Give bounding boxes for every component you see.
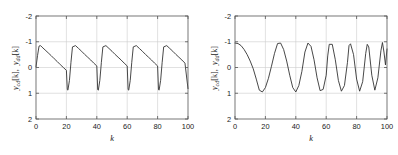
data-series-line xyxy=(36,46,188,91)
x-tick-label: 0 xyxy=(34,122,38,131)
x-tick-label: 40 xyxy=(93,122,101,131)
chart-panel-left: 020406080100210-1-2k ycd[k], ydd[k] xyxy=(0,0,199,155)
y-tick-label: -1 xyxy=(224,37,231,46)
y-tick-label: 0 xyxy=(227,63,231,72)
axes-right: 020406080100210-1-2k xyxy=(199,0,398,155)
chart-panel-right: 020406080100210-1-2k ycd[k], ydd[k] xyxy=(199,0,398,155)
x-tick-label: 20 xyxy=(261,122,269,131)
y-tick-label: -2 xyxy=(25,12,32,21)
y-tick-label: 2 xyxy=(227,115,231,124)
x-tick-label: 40 xyxy=(292,122,300,131)
y-tick-label: 1 xyxy=(227,89,231,98)
figure-canvas: 020406080100210-1-2k ycd[k], ydd[k] 0204… xyxy=(0,0,398,155)
y-tick-label: 0 xyxy=(28,63,32,72)
x-axis-label: k xyxy=(110,134,114,143)
x-tick-label: 60 xyxy=(123,122,131,131)
y-tick-label: 1 xyxy=(28,89,32,98)
x-axis-label: k xyxy=(309,134,313,143)
x-tick-label: 100 xyxy=(182,122,194,131)
x-tick-label: 0 xyxy=(233,122,237,131)
y-tick-label: 2 xyxy=(28,115,32,124)
x-tick-label: 20 xyxy=(62,122,70,131)
axes-left: 020406080100210-1-2k xyxy=(0,0,199,155)
x-tick-label: 100 xyxy=(381,122,393,131)
x-tick-label: 80 xyxy=(352,122,360,131)
y-tick-label: -2 xyxy=(224,12,231,21)
x-tick-label: 80 xyxy=(153,122,161,131)
x-tick-label: 60 xyxy=(322,122,330,131)
y-tick-label: -1 xyxy=(25,37,32,46)
